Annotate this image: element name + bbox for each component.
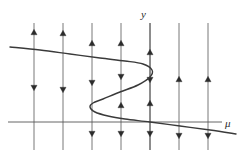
flow-arrow-down xyxy=(205,133,211,139)
flow-arrow-down xyxy=(118,74,124,80)
flow-arrow-down xyxy=(118,131,124,137)
equilibrium-curve-group xyxy=(10,47,236,134)
mu-axis-label: μ xyxy=(225,118,231,129)
y-axis-label: y xyxy=(141,9,146,20)
flow-arrow-down xyxy=(89,131,95,137)
equilibrium-curve xyxy=(10,47,236,134)
flow-arrow-up xyxy=(89,40,95,46)
flow-arrow-down xyxy=(176,133,182,139)
flow-arrow-down xyxy=(147,131,153,137)
flow-arrow-down xyxy=(89,80,95,86)
flow-arrow-down xyxy=(60,87,66,93)
flow-arrow-down xyxy=(31,85,37,91)
flow-arrow-up xyxy=(31,29,37,35)
axes-group xyxy=(8,23,222,150)
flow-arrow-up xyxy=(60,30,66,36)
phase-diagram-canvas xyxy=(0,0,244,159)
flow-arrow-up xyxy=(147,49,153,55)
flow-arrow-up xyxy=(118,102,124,108)
flow-arrow-up xyxy=(147,100,153,106)
flow-arrow-down xyxy=(147,77,153,83)
flow-arrow-up xyxy=(176,76,182,82)
flow-arrow-up xyxy=(118,40,124,46)
phase-diagram-figure: y μ xyxy=(0,0,244,159)
flow-arrow-up xyxy=(205,76,211,82)
